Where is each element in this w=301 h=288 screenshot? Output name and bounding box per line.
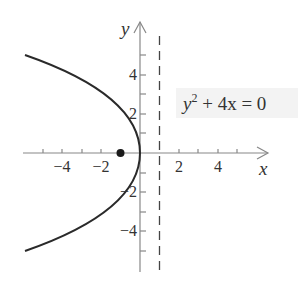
x-tick-label: 2 xyxy=(175,158,183,175)
parabola-figure: −4 −2 2 4 4 2 −2 −4 x y y2 + 4x = 0 xyxy=(0,0,301,288)
y-axis-label: y xyxy=(119,18,130,39)
y-tick-label: −4 xyxy=(120,222,137,239)
x-tick-label: 4 xyxy=(214,158,222,175)
equation-y: y xyxy=(181,93,192,114)
x-tick-label: −2 xyxy=(92,158,109,175)
y-tick-label: 4 xyxy=(129,66,137,83)
equation-rest: + 4x = 0 xyxy=(197,93,266,114)
focus-point xyxy=(117,149,125,157)
x-tick-label: −4 xyxy=(53,158,70,175)
y-tick-label: 2 xyxy=(129,105,137,122)
x-axis-label: x xyxy=(258,158,268,179)
y-tick-label: −2 xyxy=(120,183,137,200)
